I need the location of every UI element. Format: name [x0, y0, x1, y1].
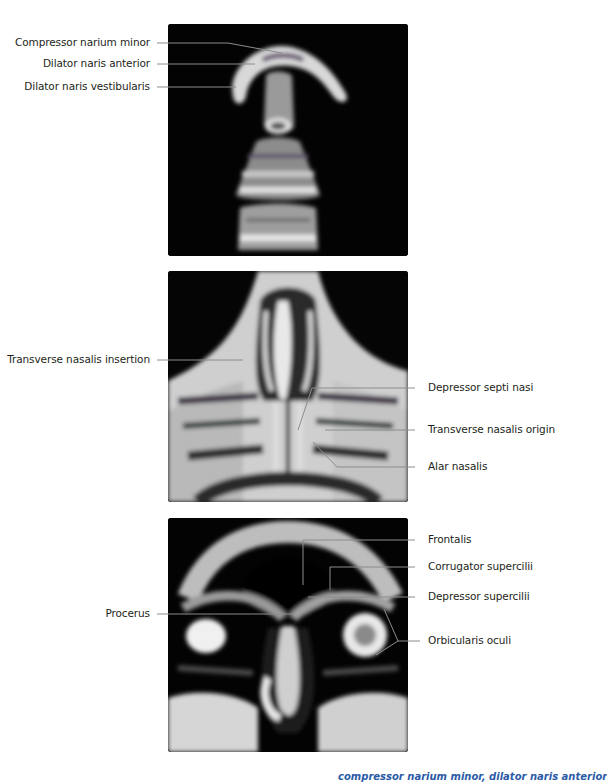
label-dilator-naris-anterior: Dilator naris anterior [43, 57, 150, 70]
label-alar-nasalis: Alar nasalis [428, 460, 487, 473]
label-compressor-narium-minor: Compressor narium minor [15, 36, 150, 49]
caption-highlight-terms: compressor narium minor, dilator naris a… [338, 771, 607, 782]
mri-panel-nasal-tip [168, 24, 408, 256]
mri-image-glabella-orbits [168, 518, 408, 752]
label-procerus: Procerus [105, 607, 150, 620]
label-depressor-septi-nasi: Depressor septi nasi [428, 381, 533, 394]
label-frontalis: Frontalis [428, 533, 471, 546]
mri-panel-nasal-pyramid [168, 271, 408, 502]
label-dilator-naris-vestibularis: Dilator naris vestibularis [24, 80, 150, 93]
label-transverse-nasalis-insertion: Transverse nasalis insertion [7, 353, 150, 366]
mri-panel-glabella-orbits [168, 518, 408, 752]
label-orbicularis-oculi: Orbicularis oculi [428, 634, 511, 647]
label-corrugator-supercilii: Corrugator supercilii [428, 560, 533, 573]
mri-image-nasal-tip [168, 24, 408, 256]
label-transverse-nasalis-origin: Transverse nasalis origin [428, 423, 555, 436]
label-depressor-supercilii: Depressor supercilii [428, 590, 530, 603]
mri-image-nasal-pyramid [168, 271, 408, 502]
